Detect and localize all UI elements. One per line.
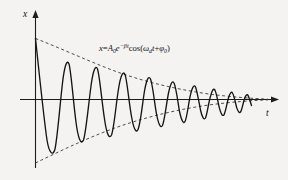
y-axis-label: x [22, 9, 28, 19]
figure-canvas: x t x=A0e−βtcos(ωdt+φ0) [0, 0, 288, 180]
displacement-axis-arrowhead [32, 10, 38, 18]
damped-oscillation-plot: x t x=A0e−βtcos(ωdt+φ0) [0, 0, 288, 180]
equation-close-paren: ) [167, 43, 170, 53]
damped-cosine-curve [36, 39, 252, 154]
x-axis-label: t [266, 108, 269, 118]
displacement-axis [32, 10, 38, 168]
time-axis-arrowhead [271, 96, 279, 102]
equation-cos: cos [129, 43, 141, 53]
lower-envelope-curve [36, 100, 269, 163]
equation-annotation: x=A0e−βtcos(ωdt+φ0) [98, 42, 170, 54]
